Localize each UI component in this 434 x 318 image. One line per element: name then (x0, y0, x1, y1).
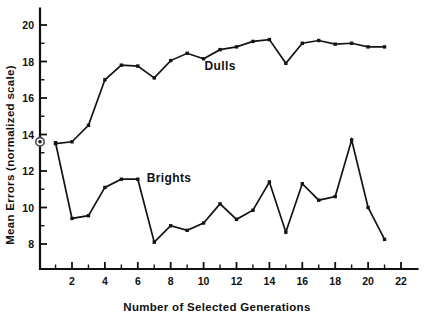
y-tick-label: 16 (22, 92, 34, 104)
x-tick-label: 22 (395, 275, 407, 287)
x-tick-label: 10 (198, 275, 210, 287)
data-point-brights (350, 138, 353, 141)
data-point-dulls (301, 42, 304, 45)
data-point-brights (301, 182, 304, 185)
data-point-dulls (350, 42, 353, 45)
data-point-dulls (366, 45, 369, 48)
x-tick-label: 12 (231, 275, 243, 287)
data-point-brights (54, 141, 57, 144)
x-tick-label: 6 (135, 275, 141, 287)
data-point-dulls (383, 45, 386, 48)
data-point-brights (383, 238, 386, 241)
x-tick-label: 4 (102, 275, 108, 287)
data-point-dulls (218, 48, 221, 51)
y-tick-label: 14 (22, 129, 34, 141)
series-line-dulls (56, 40, 385, 144)
data-point-dulls (235, 45, 238, 48)
data-point-brights (136, 178, 139, 181)
data-point-brights (366, 206, 369, 209)
chart-figure: 8101214161820246810121416182022 DullsBri… (0, 0, 434, 318)
data-point-brights (185, 229, 188, 232)
x-tick-label: 16 (296, 275, 308, 287)
data-point-brights (218, 202, 221, 205)
data-point-brights (153, 240, 156, 243)
series-label-dulls: Dulls (204, 59, 235, 73)
data-point-dulls (153, 76, 156, 79)
x-tick-label: 18 (329, 275, 341, 287)
line-chart: 8101214161820246810121416182022 DullsBri… (0, 0, 434, 318)
data-point-dulls (317, 39, 320, 42)
data-point-brights (120, 178, 123, 181)
x-axis-title: Number of Selected Generations (123, 301, 310, 313)
control-point-marker (36, 138, 44, 146)
series-line-brights (56, 140, 385, 242)
data-point-dulls (169, 59, 172, 62)
data-point-brights (268, 180, 271, 183)
series-label-brights: Brights (147, 171, 192, 185)
data-point-brights (169, 224, 172, 227)
data-point-dulls (70, 140, 73, 143)
series-labels: DullsBrights (147, 59, 236, 185)
y-tick-label: 20 (22, 19, 34, 31)
data-point-dulls (120, 63, 123, 66)
data-point-dulls (334, 42, 337, 45)
x-tick-label: 8 (168, 275, 174, 287)
x-tick-label: 20 (362, 275, 374, 287)
data-point-brights (235, 218, 238, 221)
data-point-brights (70, 217, 73, 220)
data-point-brights (284, 230, 287, 233)
data-point-dulls (87, 124, 90, 127)
control-point-center-dot (38, 140, 42, 144)
data-point-brights (103, 186, 106, 189)
y-axis-title: Mean Errors (normalized scale) (4, 65, 16, 245)
data-point-brights (87, 214, 90, 217)
x-tick-label: 2 (69, 275, 75, 287)
y-tick-label: 12 (22, 165, 34, 177)
data-point-dulls (268, 38, 271, 41)
data-point-dulls (251, 40, 254, 43)
x-tick-label: 14 (264, 275, 276, 287)
y-tick-label: 8 (28, 238, 34, 250)
y-tick-label: 10 (22, 202, 34, 214)
data-point-brights (202, 221, 205, 224)
data-point-dulls (284, 62, 287, 65)
data-point-dulls (185, 52, 188, 55)
data-point-brights (251, 209, 254, 212)
data-point-dulls (136, 64, 139, 67)
data-point-brights (334, 195, 337, 198)
data-point-brights (317, 199, 320, 202)
y-tick-label: 18 (22, 56, 34, 68)
data-point-dulls (103, 78, 106, 81)
